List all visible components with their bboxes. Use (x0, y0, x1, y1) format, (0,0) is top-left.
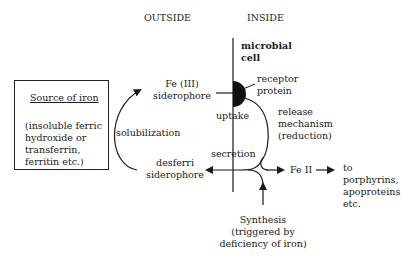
destination-line1: to (343, 162, 353, 174)
desferri-siderophore-line1: desferri (140, 157, 210, 169)
destination-line4: etc. (343, 198, 361, 210)
source-box-line: ferritin etc.) (25, 156, 84, 168)
secretion-label: secretion (211, 148, 256, 160)
fe3-siderophore-line1: Fe (III) (147, 78, 217, 90)
synthesis-curve (248, 170, 263, 186)
receptor-protein-shape (233, 81, 246, 107)
synthesis-line1: Synthesis (218, 214, 308, 226)
desferri-siderophore-line2: siderophore (140, 169, 210, 181)
release-label-line1: release (278, 106, 313, 118)
receptor-protein-line2: protein (257, 85, 292, 97)
source-box-line: hydroxide or (25, 132, 86, 144)
source-box-line: (insoluble ferric (25, 120, 102, 132)
source-box-title: Source of iron (30, 92, 99, 104)
destination-line2: porphyrins, (343, 174, 399, 186)
solubilization-label: solubilization (116, 127, 180, 139)
synthesis-line2: (triggered by (218, 226, 308, 238)
cell-label-line2: cell (241, 52, 260, 64)
synthesis-line3: deficiency of iron) (218, 238, 308, 250)
receptor-pointer-line (243, 84, 255, 89)
destination-line3: apoproteins (343, 186, 400, 198)
source-box-line: transferrin, (25, 144, 80, 156)
outside-header: OUTSIDE (144, 12, 191, 24)
fe3-siderophore-line2: siderophore (147, 90, 217, 102)
release-label-line3: (reduction) (278, 130, 332, 142)
inside-header: INSIDE (247, 12, 284, 24)
cell-label-line1: microbial (241, 40, 292, 52)
receptor-protein-line1: receptor (257, 73, 298, 85)
release-label-line2: mechanism (278, 118, 333, 130)
uptake-label: uptake (216, 110, 249, 122)
fe2-label: Fe II (290, 164, 312, 176)
siderophore-iron-uptake-diagram: OUTSIDE INSIDE microbial cell Source of … (0, 0, 408, 258)
